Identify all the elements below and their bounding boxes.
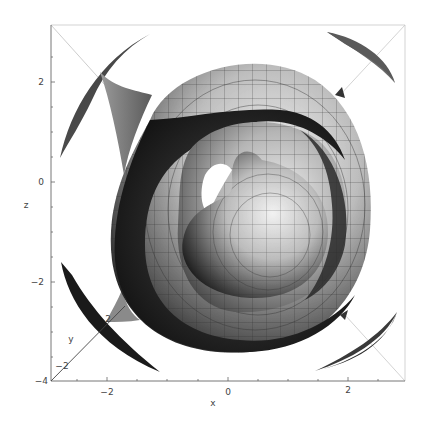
- x-tick-0: 0: [225, 387, 231, 397]
- z-axis-label: z: [24, 200, 29, 210]
- z-tick-2: 2: [38, 77, 44, 87]
- x-tick-labels: −2 0 2: [100, 385, 351, 397]
- y-axis-label: y: [68, 334, 74, 344]
- z-tick-labels: 2 0 −2 −4: [31, 77, 49, 386]
- z-tick-neg2: −2: [31, 277, 44, 287]
- y-tick-2: 2: [105, 314, 111, 324]
- x-tick-2: 2: [345, 385, 351, 395]
- z-tick-0: 0: [38, 177, 44, 187]
- surface-plot: 2 0 −2 −4 −2 0 2 2 −2 z x y: [0, 0, 428, 422]
- z-tick-neg4: −4: [35, 376, 49, 386]
- y-tick-neg2: −2: [55, 361, 68, 371]
- x-tick-neg2: −2: [100, 387, 113, 397]
- x-axis-label: x: [210, 398, 216, 408]
